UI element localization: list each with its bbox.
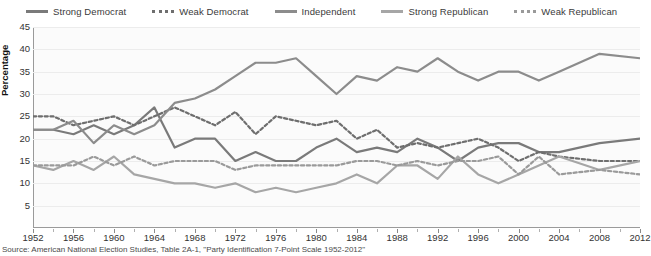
legend-label: Weak Republican bbox=[541, 6, 617, 17]
x-tick-label: 1992 bbox=[427, 232, 448, 243]
legend-swatch-icon bbox=[381, 10, 403, 13]
y-tick-label: 20 bbox=[6, 134, 30, 144]
plot-area bbox=[33, 27, 640, 228]
x-tick-minor-mark bbox=[337, 229, 338, 232]
series-lines bbox=[33, 27, 640, 228]
x-tick-label: 1964 bbox=[144, 232, 165, 243]
y-tick-label: 45 bbox=[6, 22, 30, 32]
x-tick-minor-mark bbox=[579, 229, 580, 232]
x-tick-minor-mark bbox=[539, 229, 540, 232]
x-tick-label: 1956 bbox=[63, 232, 84, 243]
x-tick-label: 1976 bbox=[265, 232, 286, 243]
x-tick-label: 1984 bbox=[346, 232, 367, 243]
x-tick-label: 2004 bbox=[548, 232, 569, 243]
legend-label: Strong Republican bbox=[408, 6, 488, 17]
x-tick-minor-mark bbox=[620, 229, 621, 232]
x-tick-label: 1968 bbox=[184, 232, 205, 243]
legend-label: Strong Democrat bbox=[53, 6, 126, 17]
legend-item-strong-republican[interactable]: Strong Republican bbox=[381, 6, 488, 17]
x-tick-minor-mark bbox=[53, 229, 54, 232]
x-tick-label: 1960 bbox=[103, 232, 124, 243]
legend-swatch-icon bbox=[152, 10, 174, 13]
x-tick-label: 1952 bbox=[22, 232, 43, 243]
x-tick-minor-mark bbox=[296, 229, 297, 232]
x-tick-minor-mark bbox=[94, 229, 95, 232]
legend-label: Weak Democrat bbox=[179, 6, 248, 17]
legend-swatch-icon bbox=[275, 10, 297, 13]
x-tick-label: 1972 bbox=[225, 232, 246, 243]
y-axis-ticks: 45403530252015105 bbox=[0, 0, 30, 256]
legend-item-weak-republican[interactable]: Weak Republican bbox=[514, 6, 617, 17]
x-tick-minor-mark bbox=[215, 229, 216, 232]
x-tick-label: 2000 bbox=[508, 232, 529, 243]
x-tick-minor-mark bbox=[134, 229, 135, 232]
x-tick-minor-mark bbox=[458, 229, 459, 232]
x-tick-label: 1980 bbox=[306, 232, 327, 243]
x-tick-minor-mark bbox=[498, 229, 499, 232]
x-tick-minor-mark bbox=[417, 229, 418, 232]
y-tick-label: 5 bbox=[6, 201, 30, 211]
y-tick-label: 25 bbox=[6, 111, 30, 121]
legend-item-weak-democrat[interactable]: Weak Democrat bbox=[152, 6, 248, 17]
x-tick-label: 1988 bbox=[387, 232, 408, 243]
chart-legend: Strong DemocratWeak DemocratIndependentS… bbox=[0, 0, 646, 22]
legend-item-independent[interactable]: Independent bbox=[275, 6, 356, 17]
y-tick-label: 15 bbox=[6, 156, 30, 166]
series-line-strong-democrat bbox=[33, 107, 640, 161]
legend-label: Independent bbox=[302, 6, 356, 17]
x-tick-label: 1996 bbox=[468, 232, 489, 243]
x-tick-minor-mark bbox=[175, 229, 176, 232]
y-axis-title: Percentage bbox=[0, 45, 10, 96]
legend-item-strong-democrat[interactable]: Strong Democrat bbox=[26, 6, 126, 17]
x-tick-minor-mark bbox=[256, 229, 257, 232]
x-tick-label: 2008 bbox=[589, 232, 610, 243]
series-line-independent bbox=[33, 54, 640, 143]
legend-swatch-icon bbox=[514, 10, 536, 13]
source-note: Source: American National Election Studi… bbox=[2, 245, 365, 254]
x-tick-label: 2012 bbox=[629, 232, 650, 243]
y-tick-label: 10 bbox=[6, 178, 30, 188]
x-tick-minor-mark bbox=[377, 229, 378, 232]
x-axis-ticks: 1952195619601964196819721976198019841988… bbox=[33, 229, 640, 245]
